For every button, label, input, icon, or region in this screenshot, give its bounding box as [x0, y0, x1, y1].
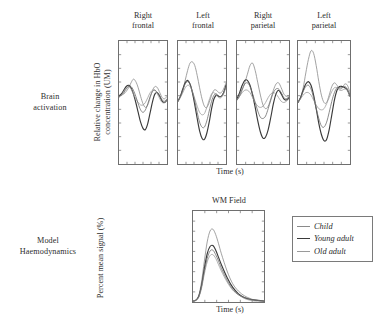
legend-swatch-young-adult [297, 238, 310, 239]
plot-panel-left-frontal[interactable] [177, 40, 227, 165]
col-head-line2: frontal [192, 21, 214, 30]
series-line [193, 229, 264, 301]
series-line [193, 254, 264, 301]
legend-item-young-adult[interactable]: Young adult [297, 233, 367, 246]
legend-swatch-old-adult [297, 251, 310, 252]
plot-panel-left-parietal[interactable] [297, 40, 351, 165]
chart-canvas [237, 41, 289, 164]
axis-ticks [178, 41, 226, 164]
axis-ticks [193, 211, 264, 302]
row-label-brain-activation: Brain activation [14, 92, 86, 113]
col-head-line2: parietal [312, 21, 337, 30]
col-head-left-parietal: Left parietal [295, 11, 353, 32]
row-label-line2: Haemodynamics [20, 247, 76, 256]
col-head-line1: Right [134, 11, 152, 20]
legend-label-child: Child [314, 222, 333, 231]
series-line [178, 80, 226, 139]
col-head-right-parietal: Right parietal [234, 11, 292, 32]
axis-ticks [237, 41, 289, 164]
axis-ticks [119, 41, 167, 164]
row-label-line1: Model [37, 236, 59, 245]
legend-item-old-adult[interactable]: Old adult [297, 245, 367, 258]
col-head-line1: Right [254, 11, 272, 20]
col-head-line2: frontal [132, 21, 154, 30]
row-label-line2: activation [33, 103, 66, 112]
chart-canvas [193, 211, 264, 302]
row-label-model-haemodynamics: Model Haemodynamics [6, 236, 90, 257]
legend-label-old-adult: Old adult [314, 247, 346, 256]
plot-panel-right-frontal[interactable] [118, 40, 168, 165]
chart-canvas [298, 41, 350, 164]
series-line [298, 87, 350, 110]
bottom-row-x-axis-title: Time (s) [185, 305, 275, 314]
wm-field-title: WM Field [190, 196, 268, 205]
col-head-line1: Left [196, 11, 210, 20]
series-line [298, 85, 350, 127]
y-axis-title-line1: Relative change in HbO [93, 63, 102, 142]
plot-panel-right-parietal[interactable] [236, 40, 290, 165]
series-line [237, 63, 289, 109]
series-line [119, 79, 167, 107]
row-label-line1: Brain [41, 92, 60, 101]
col-head-right-frontal: Right frontal [116, 11, 170, 32]
legend-swatch-child [297, 226, 310, 227]
col-head-left-frontal: Left frontal [176, 11, 230, 32]
y-axis-title: Percent mean signal (%) [96, 218, 105, 298]
chart-canvas [178, 41, 226, 164]
legend: Child Young adult Old adult [292, 216, 373, 262]
legend-item-child[interactable]: Child [297, 220, 367, 233]
top-row-x-axis-title: Time (s) [185, 167, 275, 176]
col-head-line1: Left [317, 11, 331, 20]
col-head-line2: parietal [251, 21, 276, 30]
series-line [298, 50, 350, 103]
legend-label-young-adult: Young adult [314, 234, 354, 243]
figure-root: Brain activation Relative change in HbO … [0, 0, 378, 326]
plot-panel-wm-field[interactable] [192, 210, 265, 303]
y-axis-title-line2: concentration (UM) [103, 40, 113, 164]
chart-canvas [119, 41, 167, 164]
